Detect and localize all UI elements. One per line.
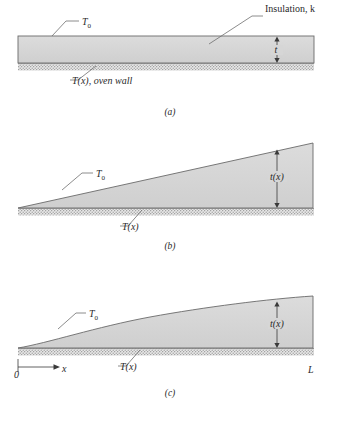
panel-c-wall-label: T(x) xyxy=(120,361,137,373)
panel-b-thickness-label: t(x) xyxy=(270,171,285,183)
panel-a-oven-wall-band xyxy=(18,64,314,71)
panel-c-thickness-label: t(x) xyxy=(270,318,285,330)
panel-b-oven-wall-band xyxy=(18,209,314,216)
panel-a: T0 Insulation, k t T(x), oven wall (a) xyxy=(18,3,315,118)
panel-a-t0-label: T0 xyxy=(82,16,92,30)
panel-b: T0 t(x) T(x) (b) xyxy=(18,143,314,252)
panel-c-t0-label: T0 xyxy=(89,308,99,322)
panel-a-caption: (a) xyxy=(164,107,175,118)
panel-c-length-label: L xyxy=(307,364,314,375)
insulation-figure: T0 Insulation, k t T(x), oven wall (a) T… xyxy=(0,0,340,426)
panel-c-oven-wall-band xyxy=(18,349,314,356)
panel-a-thickness-label: t xyxy=(275,44,278,55)
panel-a-t0-leader xyxy=(52,21,79,36)
panel-c-origin-label: 0 xyxy=(14,369,19,380)
panel-a-insulation-label: Insulation, k xyxy=(265,3,315,14)
panel-b-caption: (b) xyxy=(164,241,175,252)
panel-a-wall-label: T(x), oven wall xyxy=(72,75,132,87)
panel-c-axis-label: x xyxy=(61,363,67,374)
panel-c-caption: (c) xyxy=(165,388,176,399)
panel-c-t0-leader xyxy=(58,313,86,329)
panel-b-wall-label: T(x) xyxy=(122,221,139,233)
panel-b-t0-label: T0 xyxy=(96,168,106,182)
panel-c-x-axis: 0 x xyxy=(14,359,67,380)
panel-a-insulation-slab xyxy=(18,36,314,63)
panel-b-t0-leader xyxy=(62,173,93,190)
panel-c: T0 t(x) T(x) 0 x L (c) xyxy=(14,296,314,399)
